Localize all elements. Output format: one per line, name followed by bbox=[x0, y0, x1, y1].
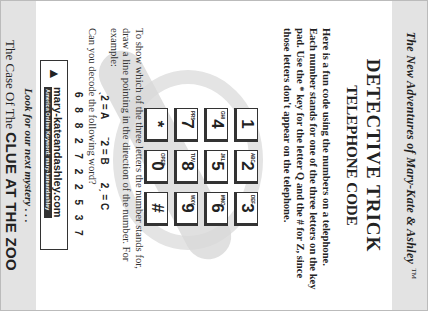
key-1: 1 bbox=[234, 108, 258, 142]
series-logo: The New Adventures of Mary-Kate & Ashley… bbox=[403, 0, 418, 311]
instructions-paragraph: To show which of the three letters the n… bbox=[108, 28, 146, 290]
decode-question: Can you decode the following word? bbox=[87, 28, 98, 290]
activity-page: The New Adventures of Mary-Kate & Ashley… bbox=[0, 0, 428, 311]
website-url[interactable]: mary-kateandashley.com bbox=[52, 87, 64, 218]
next-title-main: CLUE AT THE ZOO bbox=[3, 132, 20, 271]
key-hash: # bbox=[144, 192, 168, 226]
telephone-keypad: 1 ABC2 DEF3 GHI4 JKL5 MNO6 PRS7 TUV8 WXY… bbox=[144, 108, 258, 234]
banner-text: mary-kateandashley.com America Online Ke… bbox=[44, 87, 64, 218]
key-3: DEF3 bbox=[234, 192, 258, 226]
key-5: JKL5 bbox=[204, 150, 228, 184]
trademark: TM bbox=[410, 268, 418, 279]
secret-code: 6 8 8 2 7 2 2 5 3 7 bbox=[73, 92, 84, 239]
dualstar-logo-icon: ▲ bbox=[42, 61, 66, 87]
key-0: OPER0 bbox=[144, 150, 168, 184]
key-9: WXY9 bbox=[174, 192, 198, 226]
examples-row: ˎ2 = A ˉ2 = B 2ˏ = C bbox=[99, 92, 110, 210]
screenshot-frame: The New Adventures of Mary-Kate & Ashley… bbox=[0, 0, 428, 311]
example-a: ˎ2 = A bbox=[99, 92, 110, 119]
next-mystery-teaser: Look for our next mystery . . . bbox=[23, 0, 35, 311]
aol-keyword: America Online Keyword: mary-kateandashl… bbox=[44, 87, 52, 218]
key-star: * bbox=[144, 108, 168, 142]
key-8: TUV8 bbox=[174, 150, 198, 184]
page-subtitle: TELEPHONE CODE bbox=[343, 0, 360, 311]
example-c: 2ˏ = C bbox=[99, 183, 110, 211]
key-2: ABC2 bbox=[234, 150, 258, 184]
key-4: GHI4 bbox=[204, 108, 228, 142]
page-title: DETECTIVE TRICK bbox=[362, 0, 384, 311]
key-7: PRS7 bbox=[174, 108, 198, 142]
intro-paragraph: Here is a fun code using the numbers on … bbox=[281, 28, 333, 290]
key-6: MNO6 bbox=[204, 192, 228, 226]
next-title-prefix: The Case Of The bbox=[3, 40, 18, 129]
series-title: The New Adventures of Mary-Kate & Ashley bbox=[404, 32, 418, 264]
example-b: ˉ2 = B bbox=[99, 137, 110, 165]
website-banner[interactable]: ▲ mary-kateandashley.com America Online … bbox=[40, 60, 68, 250]
next-mystery-title: The Case Of The CLUE AT THE ZOO bbox=[2, 0, 20, 311]
